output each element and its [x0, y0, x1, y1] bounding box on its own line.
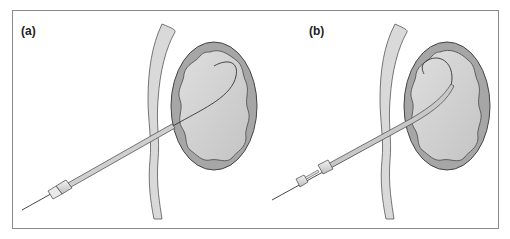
body-wall-a: [148, 24, 175, 219]
panel-label-b: (b): [309, 24, 324, 38]
kidney-b-inner: [411, 50, 481, 160]
body-wall-b: [380, 24, 407, 219]
medical-diagram: [0, 0, 510, 239]
kidney-a-inner: [179, 51, 249, 161]
panel-b: [272, 24, 490, 219]
needle-hub-a: [48, 180, 72, 199]
panel-label-a: (a): [21, 24, 36, 38]
panel-a: [22, 24, 257, 219]
needle-shaft-a: [68, 124, 175, 187]
